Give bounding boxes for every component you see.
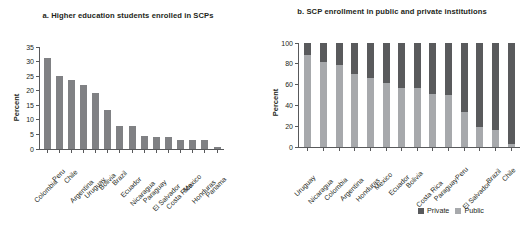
bar-segment-public[interactable] [492,130,499,147]
bar-segment-public[interactable] [383,83,390,147]
bar-slot[interactable] [187,47,199,149]
bar-segment-private[interactable] [461,43,468,112]
stacked-bar-slot[interactable] [488,43,504,147]
bar-segment-private[interactable] [492,43,499,130]
bar-slot[interactable] [41,47,53,149]
stacked-bar-slot[interactable] [472,43,488,147]
legend-item[interactable]: Public [455,207,484,215]
stacked-bar[interactable] [476,43,483,147]
stacked-bar[interactable] [429,43,436,147]
stacked-bar[interactable] [461,43,468,147]
bar[interactable] [201,140,208,149]
bar-segment-private[interactable] [476,43,483,127]
panel-b-x-tick-marks [300,148,519,151]
stacked-bar-slot[interactable] [394,43,410,147]
bar-segment-public[interactable] [429,94,436,147]
bar-slot[interactable] [175,47,187,149]
bar-slot[interactable] [77,47,89,149]
bar-slot[interactable] [90,47,102,149]
bar[interactable] [129,126,136,149]
stacked-bar-slot[interactable] [425,43,441,147]
bar-segment-private[interactable] [320,43,327,62]
bar-slot[interactable] [150,47,162,149]
bar-segment-public[interactable] [414,88,421,147]
bar[interactable] [141,136,148,149]
bar-segment-private[interactable] [508,43,515,144]
panel-a-bars [41,47,223,149]
bar-slot[interactable] [65,47,77,149]
bar[interactable] [214,147,221,149]
stacked-bar-slot[interactable] [441,43,457,147]
bar[interactable] [116,126,123,149]
bar-segment-private[interactable] [429,43,436,94]
stacked-bar[interactable] [398,43,405,147]
bar-segment-public[interactable] [351,74,358,147]
bar[interactable] [165,137,172,149]
x-tick [187,150,199,153]
bar-slot[interactable] [114,47,126,149]
bar[interactable] [92,93,99,149]
bar-segment-private[interactable] [351,43,358,74]
bar-segment-public[interactable] [367,78,374,147]
bar-segment-public[interactable] [320,62,327,147]
stacked-bar[interactable] [336,43,343,147]
y-tick-label: 20 [285,123,293,130]
bar[interactable] [189,140,196,149]
stacked-bar[interactable] [320,43,327,147]
x-tick [65,150,77,153]
stacked-bar-slot[interactable] [300,43,316,147]
legend-label: Public [464,207,484,215]
x-tick [126,150,138,153]
bar[interactable] [56,76,63,149]
bar[interactable] [68,80,75,149]
bar-slot[interactable] [53,47,65,149]
bar-segment-public[interactable] [445,95,452,147]
bar-slot[interactable] [102,47,114,149]
bar-segment-private[interactable] [367,43,374,78]
stacked-bar-slot[interactable] [363,43,379,147]
bar-slot[interactable] [199,47,211,149]
stacked-bar[interactable] [367,43,374,147]
bar-segment-private[interactable] [414,43,421,88]
bar[interactable] [44,58,51,150]
bar-segment-private[interactable] [445,43,452,95]
bar[interactable] [80,85,87,149]
bar-segment-private[interactable] [336,43,343,65]
stacked-bar[interactable] [351,43,358,147]
stacked-bar-slot[interactable] [503,43,519,147]
stacked-bar-slot[interactable] [347,43,363,147]
stacked-bar[interactable] [508,43,515,147]
bar-segment-private[interactable] [304,43,311,55]
stacked-bar[interactable] [445,43,452,147]
stacked-bar[interactable] [492,43,499,147]
bar[interactable] [177,140,184,149]
bar-segment-private[interactable] [398,43,405,88]
stacked-bar-slot[interactable] [331,43,347,147]
bar-slot[interactable] [211,47,223,149]
bar-segment-public[interactable] [508,144,515,147]
bar-segment-private[interactable] [383,43,390,83]
stacked-bar-slot[interactable] [456,43,472,147]
y-tick-label: 15 [26,102,34,109]
bar[interactable] [153,137,160,149]
x-tick [150,150,162,153]
stacked-bar-slot[interactable] [409,43,425,147]
stacked-bar[interactable] [383,43,390,147]
panel-a-title: a. Higher education students enrolled in… [0,11,256,21]
stacked-bar-slot[interactable] [316,43,332,147]
x-tick [503,148,519,151]
bar-segment-public[interactable] [398,88,405,147]
bar-slot[interactable] [138,47,150,149]
bar-segment-public[interactable] [336,65,343,147]
stacked-bar[interactable] [414,43,421,147]
bar-slot[interactable] [162,47,174,149]
legend-item[interactable]: Private [418,207,449,215]
bar-segment-public[interactable] [461,112,468,147]
bar-segment-public[interactable] [476,127,483,147]
bar-segment-public[interactable] [304,55,311,147]
stacked-bar[interactable] [304,43,311,147]
bar[interactable] [104,110,111,149]
x-tick-mark [386,148,387,151]
stacked-bar-slot[interactable] [378,43,394,147]
bar-slot[interactable] [126,47,138,149]
